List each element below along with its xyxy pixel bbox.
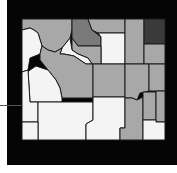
county-platte bbox=[143, 92, 156, 120]
county-johnson bbox=[98, 33, 125, 64]
county-weston bbox=[144, 44, 165, 64]
county-natrona bbox=[93, 64, 125, 97]
county-weston-top bbox=[144, 19, 165, 44]
county-laramie bbox=[143, 120, 165, 140]
county-teton bbox=[22, 28, 42, 72]
county-sweetwater bbox=[38, 102, 93, 140]
county-sheridan bbox=[88, 19, 125, 33]
county-map bbox=[0, 0, 177, 173]
county-uinta bbox=[22, 122, 38, 140]
county-goshen bbox=[156, 91, 165, 122]
county-crook bbox=[125, 19, 144, 64]
county-niobrara bbox=[149, 64, 165, 91]
